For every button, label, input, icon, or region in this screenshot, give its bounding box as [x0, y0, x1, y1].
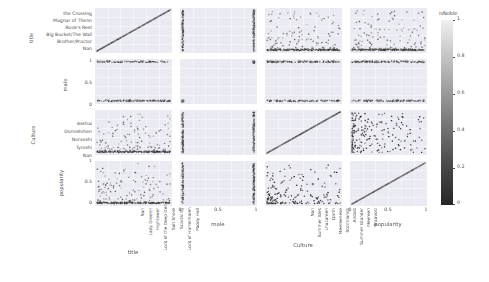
x-tick-title-5: Scarsking [180, 208, 184, 250]
y-tick-title-4: Brother/Proctor [24, 40, 92, 45]
x-tick-culture-4: Meereenese [339, 208, 343, 250]
y-tick-culture-4: Nan [36, 154, 92, 159]
colorbar-tickmark-3 [453, 131, 455, 132]
x-tick-culture-5: Stormlands [346, 208, 350, 250]
colorbar-tick-label-1: 0.8 [457, 54, 464, 59]
y-tick-title-0: the Crossing [24, 12, 92, 17]
x-axis-label-male: male [198, 221, 238, 227]
x-tick-title-2: Hightower [156, 208, 160, 250]
panel-male-popularity [350, 59, 427, 104]
panel-culture-popularity [350, 110, 427, 155]
panel-grid [95, 8, 425, 204]
panel-culture-male [180, 110, 257, 155]
y-tick-culture-2: Norvoshi [36, 138, 92, 143]
panel-culture-culture [265, 110, 342, 155]
colorbar-tickmark-2 [453, 94, 455, 95]
y-tick-culture-1: Dornishmen [36, 130, 92, 135]
y-tick-popularity-0: 1 [60, 159, 92, 164]
x-tick-male-0: 0 [170, 208, 190, 213]
x-tick-title-7: Paddy Hall [196, 208, 200, 250]
colorbar-gradient [441, 20, 453, 205]
y-tick-male-1: 0.5 [60, 81, 92, 86]
y-tick-culture-3: Tyroshi [36, 146, 92, 151]
colorbar-tickmark-5 [453, 204, 455, 205]
panel-popularity-male [180, 161, 257, 206]
colorbar-tick-label-0: 1 [457, 17, 460, 22]
colorbar-tickmark-4 [453, 168, 455, 169]
scatter-plot-matrix-figure: title male Culture popularity the Crossi… [0, 0, 489, 282]
colorbar-tick-label-3: 0.4 [457, 128, 464, 133]
y-tick-title-2: Rook's Rest [24, 26, 92, 31]
panel-male-male [180, 59, 257, 104]
y-tick-title-3: Big Bucket/The Wall [24, 33, 92, 38]
x-tick-culture-9: Braavosi [374, 208, 378, 250]
panel-title-title [95, 8, 172, 53]
x-tick-culture-8: Meereen [367, 208, 371, 250]
x-tick-title-3: Lord of the Deep Den [164, 208, 168, 250]
y-tick-male-0: 1 [60, 59, 92, 64]
x-tick-culture-3: Qarth [332, 208, 336, 250]
x-tick-male-2: 1 [246, 208, 266, 213]
y-tick-popularity-2: 0 [60, 201, 92, 206]
x-tick-popularity-2: 1 [416, 208, 436, 213]
panel-male-title [95, 59, 172, 104]
x-tick-culture-2: Lhazareen [325, 208, 329, 250]
y-tick-male-2: 0 [60, 103, 92, 108]
x-tick-title-4: Salt Shore [172, 208, 176, 250]
y-tick-popularity-1: 0.5 [60, 180, 92, 185]
panel-popularity-culture [265, 161, 342, 206]
x-tick-title-6: Lord of Harrenhalen [188, 208, 192, 250]
x-tick-culture-6: Andals [353, 208, 357, 250]
y-tick-title-1: Magnar of Thenn [24, 19, 92, 24]
panel-title-culture [265, 8, 342, 53]
y-tick-culture-0: Asshai [36, 122, 92, 127]
colorbar[interactable] [441, 20, 453, 205]
x-tick-popularity-1: 0.5 [378, 208, 398, 213]
panel-title-popularity [350, 8, 427, 53]
x-tick-title-0: Nan [141, 208, 145, 250]
x-tick-culture-7: Summer Islander [360, 208, 364, 250]
panel-culture-title [95, 110, 172, 155]
colorbar-tick-label-2: 0.6 [457, 91, 464, 96]
panel-male-culture [265, 59, 342, 104]
colorbar-tick-label-4: 0.2 [457, 165, 464, 170]
x-axis-label-culture: Culture [283, 242, 323, 248]
x-tick-title-1: Lady Greenn [149, 208, 153, 250]
y-tick-title-5: Nan [24, 47, 92, 52]
x-axis-label-title: title [113, 249, 153, 255]
colorbar-tick-label-5: 0 [457, 201, 460, 206]
panel-popularity-title [95, 161, 172, 206]
x-tick-male-1: 0.5 [208, 208, 228, 213]
x-tick-popularity-0: 0 [340, 208, 360, 213]
panel-title-male [180, 8, 257, 53]
colorbar-tickmark-0 [453, 20, 455, 21]
colorbar-tickmark-1 [453, 57, 455, 58]
panel-popularity-popularity [350, 161, 427, 206]
colorbar-title: isNoble [439, 10, 457, 16]
x-axis-label-popularity: popularity [368, 221, 408, 227]
